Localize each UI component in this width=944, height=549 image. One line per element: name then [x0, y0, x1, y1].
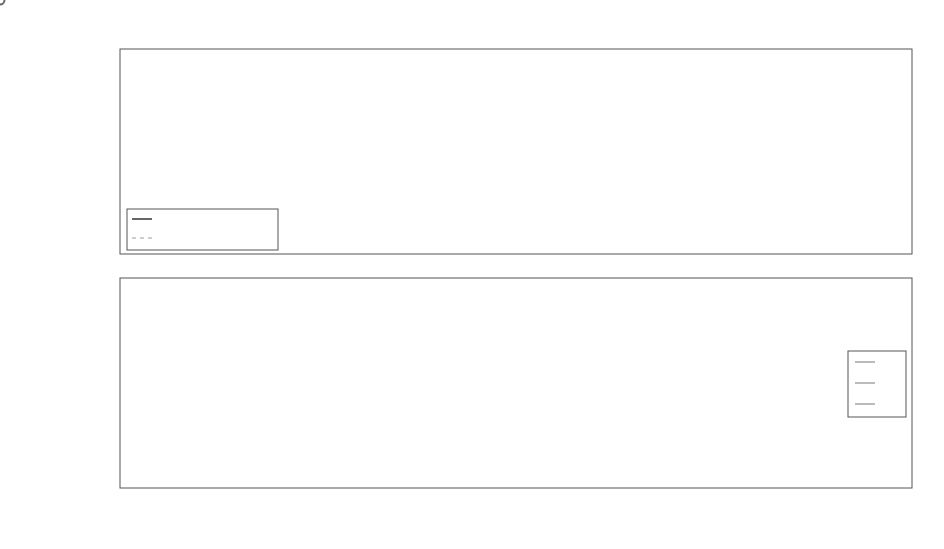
input-plot-frame	[120, 278, 912, 488]
figure	[0, 0, 944, 549]
state-plot	[0, 0, 912, 254]
violation-point-marker	[0, 0, 5, 5]
state-legend	[127, 209, 278, 250]
